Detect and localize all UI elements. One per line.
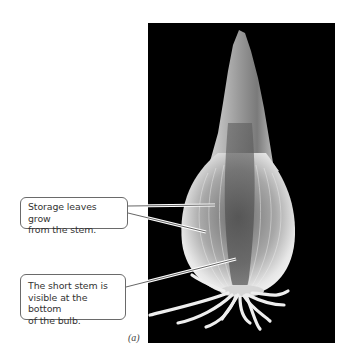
panel-label: (a) — [128, 332, 140, 343]
callout-line: from the stem. — [28, 224, 121, 236]
callout-short-stem: The short stem is visible at the bottom … — [20, 274, 126, 320]
callout-line: visible at the bottom — [28, 292, 119, 315]
bulb-photo — [148, 23, 335, 343]
onion-bulb-illustration — [148, 23, 335, 343]
callout-line: of the bulb. — [28, 315, 119, 327]
callout-line: Storage leaves grow — [28, 201, 121, 224]
callout-storage-leaves: Storage leaves grow from the stem. — [20, 197, 128, 229]
callout-line: The short stem is — [28, 280, 119, 292]
